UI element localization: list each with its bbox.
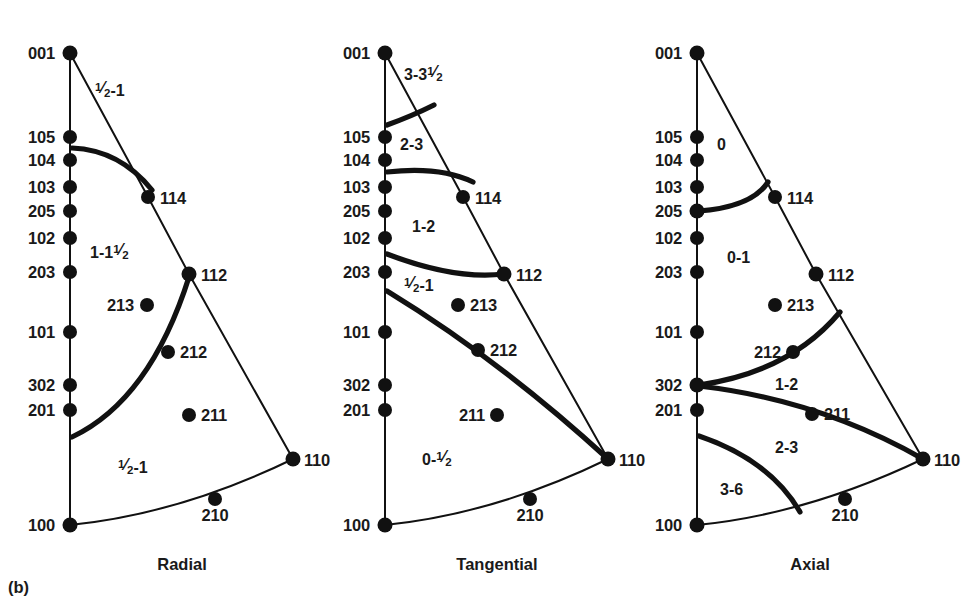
pole-label-201: 201 — [28, 401, 55, 419]
pole-label-213: 213 — [787, 296, 814, 314]
pole-dot-210 — [523, 492, 537, 506]
pole-dot-100 — [690, 518, 705, 533]
pole-label-203: 203 — [343, 263, 370, 281]
region-tangential-4-tail: -1 — [419, 277, 433, 294]
region-label-radial-2: 1-11⁄2 — [90, 241, 129, 261]
pole-dot-112 — [809, 267, 824, 282]
panel-title-tangential: Tangential — [456, 555, 537, 573]
pole-dot-211 — [490, 408, 504, 422]
pole-label-210: 210 — [517, 506, 544, 524]
pole-label-114: 114 — [475, 189, 502, 207]
pole-label-102: 102 — [655, 229, 682, 247]
region-label-tangential-4: 1⁄2-1 — [404, 274, 434, 294]
pole-dot-205 — [690, 204, 705, 219]
contour-boundary-1-tangential — [387, 105, 434, 125]
pole-dot-201 — [690, 403, 704, 417]
svg-text:1⁄2-1: 1⁄2-1 — [95, 79, 125, 99]
pole-label-101: 101 — [655, 323, 682, 341]
pole-label-212: 212 — [180, 343, 207, 361]
pole-label-110: 110 — [304, 451, 330, 469]
region-label-tangential-1: 3-31⁄2 — [404, 63, 443, 83]
pole-label-102: 102 — [343, 229, 370, 247]
pole-label-112: 112 — [828, 266, 854, 284]
panel-tangential: 001 105 104 103 205 102 203 101 302 201 … — [343, 44, 645, 573]
pole-label-112: 112 — [516, 266, 542, 284]
region-label-axial-4: 2-3 — [775, 439, 798, 456]
pole-label-205: 205 — [655, 202, 682, 220]
pole-label-100: 100 — [343, 516, 370, 534]
pole-label-100: 100 — [28, 516, 55, 534]
pole-label-205: 205 — [28, 202, 55, 220]
pole-label-104: 104 — [343, 151, 371, 169]
pole-dot-105 — [378, 130, 392, 144]
pole-label-203: 203 — [28, 263, 55, 281]
contour-boundary-1-axial — [699, 182, 768, 211]
region-label-axial-1: 0 — [717, 136, 726, 153]
pole-dot-114 — [456, 190, 470, 204]
region-radial-3-tail: -1 — [133, 459, 147, 476]
svg-text:3-31⁄2: 3-31⁄2 — [404, 63, 443, 83]
pole-dot-203 — [378, 265, 392, 279]
pole-dot-213 — [768, 298, 782, 312]
pole-label-205: 205 — [343, 202, 370, 220]
pole-label-211: 211 — [824, 405, 850, 423]
pole-dot-110 — [601, 452, 616, 467]
region-label-axial-2: 0-1 — [727, 249, 750, 266]
pole-dot-100 — [63, 518, 78, 533]
pole-dot-302 — [63, 378, 77, 392]
panel-radial: 001 105 104 103 205 102 203 101 302 201 … — [28, 44, 330, 573]
edge-100-110-tangential — [385, 459, 608, 525]
pole-dot-103 — [690, 180, 704, 194]
pole-label-201: 201 — [343, 401, 370, 419]
panel-axial: 001 105 104 103 205 102 203 101 302 201 … — [655, 44, 960, 573]
contour-boundary-4-tangential — [387, 291, 608, 459]
region-tangential-5-lead: 0- — [422, 451, 436, 468]
svg-text:1⁄2-1: 1⁄2-1 — [118, 456, 148, 476]
pole-dot-213 — [140, 298, 154, 312]
pole-dot-203 — [63, 265, 77, 279]
svg-text:1⁄2-1: 1⁄2-1 — [404, 274, 434, 294]
pole-label-110: 110 — [619, 451, 645, 469]
pole-label-110: 110 — [934, 451, 960, 469]
pole-dot-302 — [378, 378, 392, 392]
pole-dot-203 — [690, 265, 704, 279]
region-radial-2-denominator: 2 — [122, 249, 128, 261]
pole-label-101: 101 — [343, 323, 370, 341]
figure-svg: 001 105 104 103 205 102 203 101 302 201 … — [0, 0, 976, 614]
pole-dot-110 — [286, 452, 301, 467]
pole-label-211: 211 — [459, 406, 485, 424]
pole-dot-302 — [690, 378, 705, 393]
pole-dot-112 — [182, 267, 197, 282]
region-tangential-1-lead: 3-3 — [404, 66, 427, 83]
pole-label-001: 001 — [655, 44, 682, 62]
pole-dot-205 — [378, 204, 392, 218]
panel-title-axial: Axial — [790, 555, 829, 573]
edge-100-110-radial — [70, 459, 293, 525]
pole-dot-213 — [451, 298, 465, 312]
pole-label-105: 105 — [28, 128, 55, 146]
pole-dot-100 — [378, 518, 393, 533]
pole-dot-102 — [378, 231, 392, 245]
pole-dot-110 — [916, 452, 931, 467]
pole-label-112: 112 — [201, 266, 227, 284]
pole-dot-103 — [378, 180, 392, 194]
pole-label-101: 101 — [28, 323, 55, 341]
pole-dot-001 — [378, 46, 393, 61]
pole-dot-201 — [378, 403, 392, 417]
pole-dot-211 — [182, 408, 196, 422]
region-label-tangential-5: 0-1⁄2 — [422, 448, 452, 468]
region-radial-1-tail: -1 — [110, 82, 124, 99]
pole-dot-205 — [63, 204, 77, 218]
contour-boundary-2-tangential — [387, 170, 473, 182]
region-label-tangential-3: 1-2 — [412, 218, 435, 235]
figure-caption: (b) — [8, 578, 29, 597]
pole-label-100: 100 — [655, 516, 682, 534]
pole-dot-212 — [161, 345, 175, 359]
pole-label-102: 102 — [28, 229, 55, 247]
pole-dot-114 — [141, 190, 155, 204]
pole-dot-101 — [378, 325, 392, 339]
pole-dot-001 — [690, 46, 705, 61]
pole-dot-102 — [690, 231, 704, 245]
region-tangential-1-denominator: 2 — [436, 71, 442, 83]
pole-dot-105 — [690, 130, 704, 144]
